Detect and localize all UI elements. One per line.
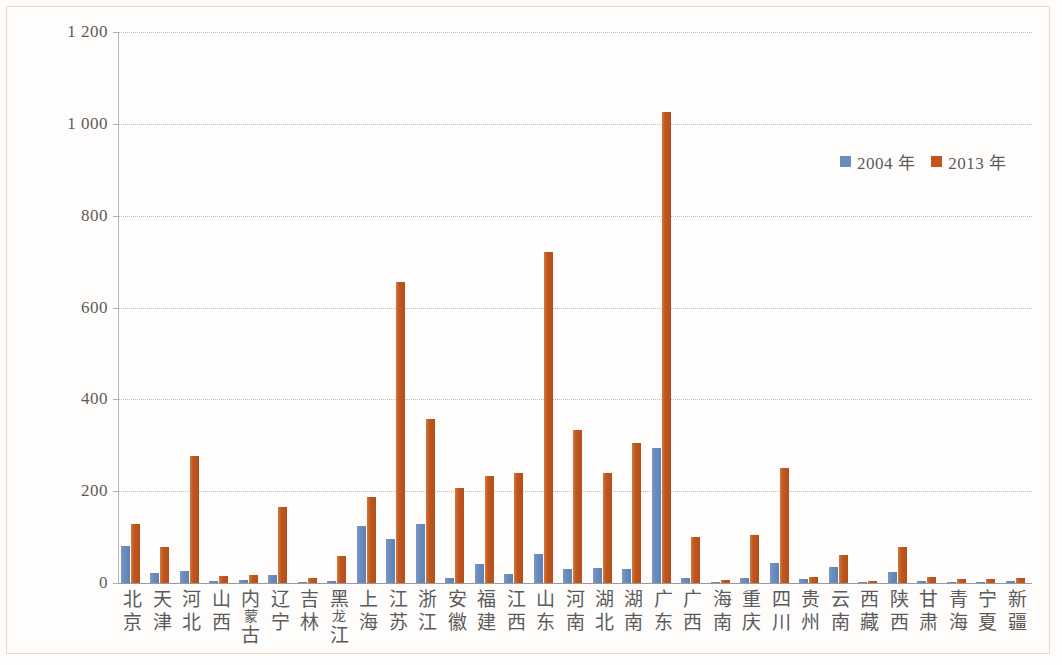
x-axis-label: 云南 [826,588,854,634]
bar-2004 [534,554,543,583]
bar-2013 [131,524,140,583]
x-axis-label: 河南 [561,588,589,634]
bar-2013 [927,577,936,583]
bar-group [1003,32,1032,583]
bar-2013 [219,576,228,583]
bar-group [590,32,619,583]
bar-2004 [563,569,572,583]
bar-2013 [1016,578,1025,583]
x-axis-label: 甘肃 [915,588,943,634]
bar-2004 [1006,581,1015,583]
y-axis-tick-label: 400 [8,390,108,407]
bar-2013 [632,443,641,583]
x-axis-label: 天津 [148,588,176,634]
bar-group [265,32,294,583]
bar-group [796,32,825,583]
bar-group [324,32,353,583]
x-axis-label: 湖南 [620,588,648,634]
x-axis-label: 山西 [207,588,235,634]
x-axis-label: 四川 [767,588,795,634]
x-axis-label: 辽宁 [266,588,294,634]
bar-2004 [327,581,336,583]
x-axis-label: 宁夏 [974,588,1002,634]
bar-2004 [917,581,926,583]
bar-2013 [691,537,700,583]
bar-2004 [180,571,189,583]
y-axis-tick [113,399,119,400]
bar-group [118,32,147,583]
x-axis-label: 海南 [708,588,736,634]
x-axis-label: 河北 [178,588,206,634]
x-axis-label: 黑龙江 [325,588,353,647]
bar-2013 [190,456,199,583]
y-axis-tick [113,491,119,492]
x-axis-label: 贵州 [797,588,825,634]
bar-2013 [396,282,405,583]
bar-2004 [976,582,985,583]
chart-legend: 2004 年2013 年 [840,149,1007,174]
y-axis-tick-label: 200 [8,482,108,499]
legend-swatch-icon [931,156,942,167]
bar-group [855,32,884,583]
bar-2004 [209,581,218,583]
x-axis-label: 浙江 [414,588,442,634]
x-axis-label: 吉林 [296,588,324,634]
bar-2004 [416,524,425,583]
bar-2013 [898,547,907,583]
bar-2004 [445,578,454,583]
chart-page: 02004006008001 0001 200 北京天津河北山西内蒙古辽宁吉林黑… [0,0,1062,665]
bar-2013 [986,579,995,583]
bar-2013 [573,430,582,583]
bar-2013 [367,497,376,583]
legend-item: 2013 年 [931,149,1006,174]
bar-series-container [118,32,1032,583]
bar-2004 [593,568,602,583]
bar-2013 [780,468,789,583]
bar-group [560,32,589,583]
bar-2013 [249,575,258,583]
bar-group [177,32,206,583]
bar-2013 [514,473,523,583]
x-axis-label: 江苏 [384,588,412,634]
bar-group [678,32,707,583]
bar-2013 [603,473,612,583]
x-axis-label: 内蒙古 [237,588,265,647]
x-axis-label: 重庆 [738,588,766,634]
bar-group [973,32,1002,583]
bar-2004 [150,573,159,583]
bar-group [413,32,442,583]
y-axis-tick-label: 600 [8,299,108,316]
x-axis-label: 青海 [944,588,972,634]
bar-2004 [622,569,631,583]
bar-group [295,32,324,583]
bar-group [472,32,501,583]
bar-2013 [160,547,169,583]
bar-group [708,32,737,583]
bar-2013 [957,579,966,583]
legend-swatch-icon [840,156,851,167]
bar-2004 [121,546,130,583]
x-axis-label: 西藏 [856,588,884,634]
bar-group [206,32,235,583]
bar-2013 [455,488,464,584]
x-axis-label: 福建 [473,588,501,634]
x-axis-label: 广西 [679,588,707,634]
bar-2004 [858,582,867,583]
bar-group [885,32,914,583]
bar-2013 [485,476,494,583]
bar-group [767,32,796,583]
legend-item: 2004 年 [840,149,915,174]
provincial-bar-chart: 02004006008001 0001 200 北京天津河北山西内蒙古辽宁吉林黑… [0,0,1062,665]
x-axis-label: 山东 [532,588,560,634]
y-axis-tick [113,32,119,33]
bar-2004 [239,580,248,583]
x-axis-label: 广东 [649,588,677,634]
legend-label: 2004 年 [857,149,915,174]
bar-2004 [652,448,661,583]
bar-2013 [868,581,877,583]
bar-2013 [750,535,759,583]
y-axis-tick [113,216,119,217]
y-axis-tick [113,308,119,309]
y-axis-tick-label: 1 200 [8,23,108,40]
bar-group [147,32,176,583]
